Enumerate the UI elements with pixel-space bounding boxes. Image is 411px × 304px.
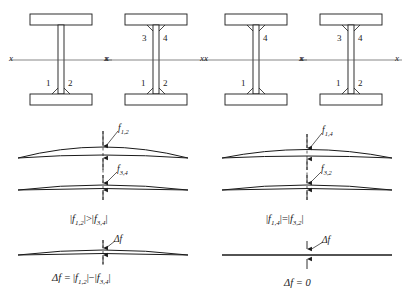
beam-4-weld-label-3: 3 [337,33,342,43]
right-result-formula: Δf = 0 [284,277,311,288]
beam-4-axis-label-left: x [299,53,303,63]
beam-2-weld-label-4: 4 [163,33,168,43]
beam-2-weld-label-3: 3 [142,33,147,43]
beam-3-cross-section [205,14,307,105]
beam-1-cross-section [10,14,112,105]
left-lower-curve-label: f3,4 [117,164,128,176]
beam-4-cross-section [300,14,402,105]
left-lower-deflection-curve [18,172,188,202]
weld-deflection-figure [0,0,411,304]
beam-1-axis-label-left: x [9,53,13,63]
beam-3-axis-label-left: x [204,53,208,63]
beam-3-weld-label-4: 4 [263,33,268,43]
right-comparison-formula: |f1,4|=|f3,2| [266,213,304,227]
beam-1-weld-label-2: 2 [68,78,73,88]
beam-2-axis-label-left: x [104,53,108,63]
right-result-curve-label: Δf [322,235,330,245]
beam-3-weld-label-1: 1 [241,78,246,88]
beam-2-weld-label-1: 1 [141,78,146,88]
left-comparison-formula: |f1,2|>|f3,4| [70,213,108,227]
left-result-curve-label: Δf [114,234,122,244]
beam-2-weld-label-2: 2 [163,78,168,88]
right-result-flat-line [222,241,392,269]
left-upper-deflection-curve [18,131,188,175]
right-lower-deflection-curve [222,172,392,202]
right-lower-curve-label: f3,2 [321,164,332,176]
beam-2-cross-section [105,14,207,105]
beam-1-weld-label-1: 1 [46,78,51,88]
left-result-deflection-curve [18,240,188,266]
left-upper-curve-label: f1,2 [118,123,129,135]
beam-4-weld-label-4: 4 [358,33,363,43]
beam-4-axis-label-right: x [395,53,399,63]
beam-4-weld-label-1: 1 [336,78,341,88]
right-upper-deflection-curve [222,133,392,175]
left-result-formula: Δf = |f1,2|−|f3,4| [52,272,111,286]
right-upper-curve-label: f1,4 [322,125,333,137]
beam-4-weld-label-2: 2 [358,78,363,88]
